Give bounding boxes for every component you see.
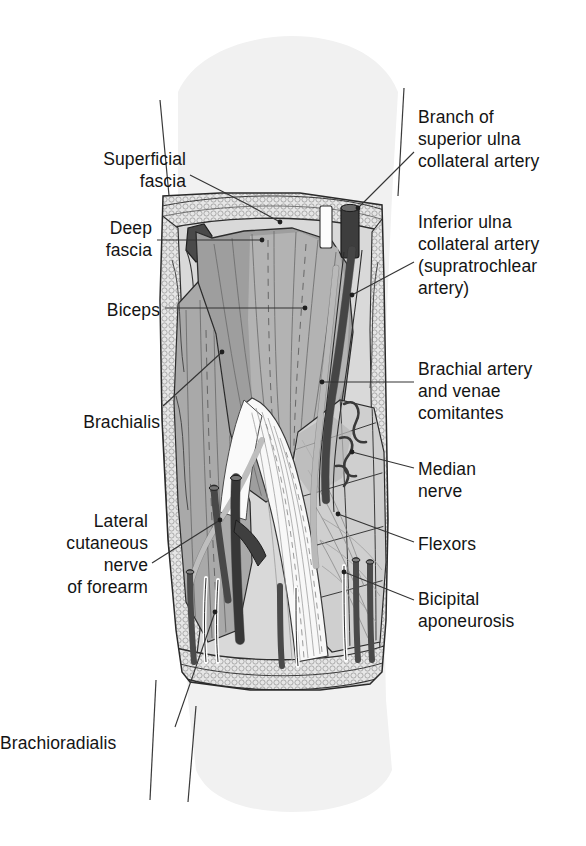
label-bicipital-aponeurosis: Bicipitalaponeurosis (418, 588, 514, 632)
label-line: Lateral (0, 510, 148, 532)
leader-dot-brachialis (220, 350, 225, 355)
label-line: superior ulna (418, 128, 539, 150)
label-median-nerve: Mediannerve (418, 458, 476, 502)
leader-dot-brachial-artery-and-venae-comitantes (320, 380, 325, 385)
label-line: cutaneous (0, 532, 148, 554)
label-line: Brachioradialis (0, 732, 58, 754)
label-biceps: Biceps (0, 299, 160, 321)
label-brachioradialis: Brachioradialis (0, 732, 58, 754)
label-flexors: Flexors (418, 533, 476, 555)
label-line: Bicipital (418, 588, 514, 610)
label-superficial-fascia: Superficialfascia (0, 148, 186, 192)
leader-dot-branch-of-superior-ulna-collateral-artery (356, 206, 361, 211)
leader-dot-bicipital-aponeurosis (342, 570, 347, 575)
label-line: (supratrochlear (418, 255, 539, 277)
label-line: and venae (418, 380, 532, 402)
label-inferior-ulna-collateral-artery: Inferior ulnacollateral artery(supratroc… (418, 211, 539, 299)
label-line: artery) (418, 277, 539, 299)
label-line: nerve (0, 554, 148, 576)
label-line: aponeurosis (418, 610, 514, 632)
label-line: Superficial (0, 148, 186, 170)
label-line: fascia (0, 239, 152, 261)
label-line: collateral artery (418, 150, 539, 172)
label-line: Inferior ulna (418, 211, 539, 233)
label-deep-fascia: Deepfascia (0, 217, 152, 261)
label-line: Deep (0, 217, 152, 239)
label-lateral-cutaneous-nerve-of-forearm: Lateralcutaneousnerveof forearm (0, 510, 148, 598)
leader-dot-flexors (336, 512, 341, 517)
label-line: comitantes (418, 402, 532, 424)
label-line: Branch of (418, 106, 539, 128)
label-line: Biceps (0, 299, 160, 321)
label-line: collateral artery (418, 233, 539, 255)
label-line: Median (418, 458, 476, 480)
label-line: nerve (418, 480, 476, 502)
label-brachial-artery-and-venae-comitantes: Brachial arteryand venaecomitantes (418, 358, 532, 424)
leader-dot-brachioradialis (213, 610, 218, 615)
label-line: Brachial artery (418, 358, 532, 380)
label-branch-of-superior-ulna-collateral-artery: Branch ofsuperior ulnacollateral artery (418, 106, 539, 172)
leader-dot-inferior-ulna-collateral-artery (350, 293, 355, 298)
label-brachialis: Brachialis (0, 411, 160, 433)
leader-dot-superficial-fascia (278, 220, 283, 225)
leader-dot-biceps (303, 306, 308, 311)
leader-dot-lateral-cutaneous-nerve-of-forearm (218, 518, 223, 523)
leader-dot-deep-fascia (260, 238, 265, 243)
leader-dot-median-nerve (350, 450, 355, 455)
label-line: fascia (0, 170, 186, 192)
label-line: Brachialis (0, 411, 160, 433)
label-line: Flexors (418, 533, 476, 555)
label-line: of forearm (0, 576, 148, 598)
